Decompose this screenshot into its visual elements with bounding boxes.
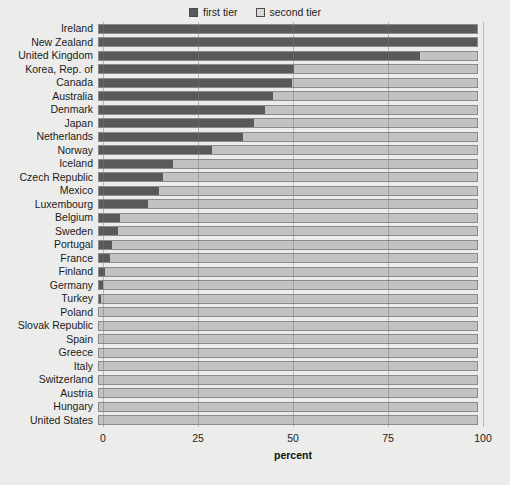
bar-track [98,307,478,317]
bar-row-label: Portugal [0,239,98,250]
bar-row: Canada [0,76,510,90]
legend-entry-second-tier: second tier [256,7,321,18]
bar-row-label: Spain [0,334,98,345]
bar-row-label: Korea, Rep. of [0,64,98,75]
bar-segment-second-tier [99,362,477,370]
bar-track [98,375,478,385]
bar-row: Italy [0,360,510,374]
chart-legend: first tier second tier [0,4,510,20]
bar-track [98,267,478,277]
bar-segment-first-tier [99,200,148,208]
stacked-bar-chart: first tier second tier IrelandNew Zealan… [0,0,510,485]
legend-swatch-second-tier-icon [256,8,265,17]
bar-row-label: Japan [0,118,98,129]
bar-segment-first-tier [99,160,173,168]
bar-track [98,361,478,371]
bar-track [98,415,478,425]
bar-row-label: Switzerland [0,374,98,385]
bar-track [98,321,478,331]
bar-track [98,226,478,236]
bar-row: Iceland [0,157,510,171]
x-tick-label: 100 [474,432,492,444]
bar-segment-second-tier [99,335,477,343]
x-tick-label: 25 [192,432,204,444]
bar-row: Luxembourg [0,198,510,212]
bar-row-label: Hungary [0,401,98,412]
bar-segment-second-tier [120,214,477,222]
bar-segment-second-tier [99,389,477,397]
bar-track [98,280,478,290]
bar-row: Sweden [0,225,510,239]
bar-row: Australia [0,90,510,104]
bar-segment-second-tier [148,200,477,208]
bar-track [98,294,478,304]
bar-row: Germany [0,279,510,293]
bar-track [98,172,478,182]
bar-segment-second-tier [99,403,477,411]
bar-segment-second-tier [110,254,477,262]
bar-segment-second-tier [118,227,477,235]
bar-row-label: Greece [0,347,98,358]
bar-segment-first-tier [99,65,294,73]
plot-area: IrelandNew ZealandUnited KingdomKorea, R… [0,22,510,427]
bar-segment-first-tier [99,214,120,222]
x-axis: 0255075100 [103,432,483,448]
bar-row: Netherlands [0,130,510,144]
bar-row: France [0,252,510,266]
bar-row-label: Ireland [0,23,98,34]
bar-row-label: Poland [0,307,98,318]
x-tick-label: 0 [100,432,106,444]
bar-row: Norway [0,144,510,158]
bar-row: Mexico [0,184,510,198]
bar-segment-first-tier [99,241,112,249]
bar-row-label: Finland [0,266,98,277]
bar-row: Portugal [0,238,510,252]
legend-entry-first-tier: first tier [189,7,237,18]
bar-segment-second-tier [103,281,477,289]
bar-row-label: New Zealand [0,37,98,48]
x-tick-label: 75 [382,432,394,444]
bar-row-label: Sweden [0,226,98,237]
bar-row-label: United Kingdom [0,50,98,61]
bar-segment-second-tier [99,349,477,357]
bar-segment-second-tier [265,106,477,114]
bar-row: New Zealand [0,36,510,50]
bar-segment-first-tier [99,119,254,127]
bar-segment-second-tier [112,241,477,249]
bar-segment-first-tier [99,106,265,114]
x-tick-label: 50 [287,432,299,444]
bar-segment-first-tier [99,227,118,235]
bar-track [98,105,478,115]
bar-row: Austria [0,387,510,401]
bar-row-label: Belgium [0,212,98,223]
bar-segment-second-tier [173,160,477,168]
bar-track [98,348,478,358]
bar-track [98,402,478,412]
bar-rows: IrelandNew ZealandUnited KingdomKorea, R… [0,22,510,427]
bar-segment-first-tier [99,146,212,154]
bar-track [98,388,478,398]
bar-row-label: Italy [0,361,98,372]
bar-segment-second-tier [99,308,477,316]
bar-row-label: United States [0,415,98,426]
bar-segment-second-tier [163,173,477,181]
bar-segment-second-tier [212,146,477,154]
bar-row: Japan [0,117,510,131]
bar-segment-first-tier [99,92,273,100]
x-axis-title: percent [103,449,483,461]
bar-segment-first-tier [99,38,477,46]
bar-row: Hungary [0,400,510,414]
bar-segment-first-tier [99,52,420,60]
bar-track [98,199,478,209]
bar-track [98,159,478,169]
bar-row-label: Iceland [0,158,98,169]
bar-segment-second-tier [159,187,477,195]
bar-row-label: Mexico [0,185,98,196]
bar-row-label: Austria [0,388,98,399]
bar-row-label: Netherlands [0,131,98,142]
bar-row-label: Germany [0,280,98,291]
bar-row: Finland [0,265,510,279]
bar-row: Czech Republic [0,171,510,185]
bar-segment-second-tier [294,65,477,73]
bar-row-label: Australia [0,91,98,102]
